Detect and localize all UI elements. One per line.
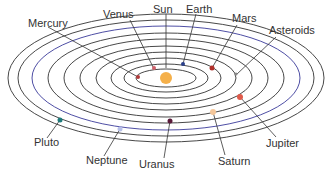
label-mars: Mars	[232, 13, 256, 24]
label-pluto: Pluto	[34, 137, 59, 148]
neptune-icon	[118, 127, 123, 132]
label-neptune: Neptune	[86, 155, 128, 166]
sun-icon	[160, 72, 172, 84]
label-venus: Venus	[103, 9, 134, 20]
asteroids-icon	[235, 73, 238, 76]
earth-icon	[181, 62, 185, 66]
mercury-icon	[136, 75, 140, 79]
jupiter-icon	[237, 94, 243, 100]
solar-system-diagram: Mercury Venus Sun Earth Mars Asteroids J…	[0, 0, 331, 173]
label-sun: Sun	[153, 4, 173, 15]
mars-icon	[210, 66, 215, 71]
venus-icon	[152, 66, 156, 70]
label-asteroids: Asteroids	[269, 25, 315, 36]
uranus-icon	[168, 119, 173, 124]
pluto-icon	[58, 118, 63, 123]
label-mercury: Mercury	[28, 18, 68, 29]
label-saturn: Saturn	[218, 156, 250, 167]
label-jupiter: Jupiter	[266, 138, 299, 149]
saturn-icon	[210, 109, 216, 115]
label-earth: Earth	[186, 4, 212, 15]
label-uranus: Uranus	[139, 159, 174, 170]
